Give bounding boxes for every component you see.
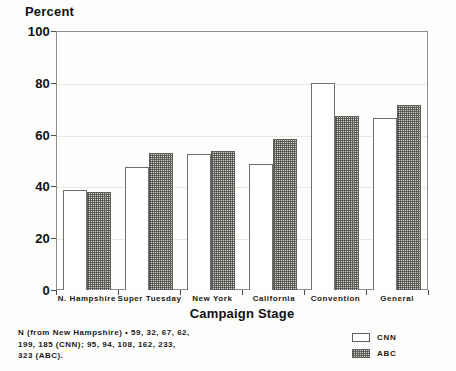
bar-abc-super-tuesday[interactable] bbox=[149, 153, 173, 290]
bar-abc-california[interactable] bbox=[273, 139, 297, 291]
footnote-line: 323 (ABC). bbox=[18, 350, 248, 362]
y-axis-tick bbox=[51, 135, 56, 136]
bar-cnn-general[interactable] bbox=[373, 118, 397, 290]
bar-abc-n-hampshire[interactable] bbox=[87, 192, 111, 290]
legend-swatch-cnn bbox=[352, 333, 370, 342]
footnote-line: N (from New Hampshire) • 59, 32, 67, 62, bbox=[18, 327, 248, 339]
y-axis-tick bbox=[51, 83, 56, 84]
bar-group bbox=[118, 31, 180, 290]
bar-abc-convention[interactable] bbox=[335, 116, 359, 290]
y-axis-title: Percent bbox=[25, 4, 74, 19]
bar-group-inner bbox=[242, 31, 304, 290]
y-axis-tick-label: 0 bbox=[4, 283, 50, 298]
bar-cnn-n-hampshire[interactable] bbox=[63, 190, 87, 290]
bar-cnn-super-tuesday[interactable] bbox=[125, 167, 149, 290]
y-axis-tick-label: 20 bbox=[4, 231, 50, 246]
bar-cnn-california[interactable] bbox=[249, 164, 273, 290]
legend-item-cnn[interactable]: CNN bbox=[352, 331, 396, 344]
legend-label-abc: ABC bbox=[377, 349, 396, 358]
legend-swatch-abc bbox=[352, 349, 370, 358]
bar-group bbox=[180, 31, 242, 290]
y-axis-tick bbox=[51, 31, 56, 32]
bar-cnn-convention[interactable] bbox=[311, 83, 335, 290]
legend-item-abc[interactable]: ABC bbox=[352, 347, 396, 360]
chart-figure: Percent 020406080100 N. HampshireSuper T… bbox=[0, 0, 456, 371]
y-axis-tick-label: 80 bbox=[4, 75, 50, 90]
y-axis-tick-label: 60 bbox=[4, 127, 50, 142]
bar-group-inner bbox=[118, 31, 180, 290]
x-axis-tick bbox=[428, 290, 429, 295]
bar-group-inner bbox=[366, 31, 428, 290]
chart-legend: CNNABC bbox=[352, 331, 396, 363]
x-axis-category-label: General bbox=[366, 294, 428, 303]
x-axis-category-label: N. Hampshire bbox=[56, 294, 118, 303]
x-axis-title: Campaign Stage bbox=[56, 306, 428, 321]
bar-group-inner bbox=[304, 31, 366, 290]
bar-abc-general[interactable] bbox=[397, 105, 421, 290]
y-axis-tick bbox=[51, 290, 56, 291]
legend-label-cnn: CNN bbox=[377, 333, 396, 342]
bar-groups bbox=[56, 31, 428, 290]
x-axis-category-label: New York bbox=[182, 294, 244, 303]
y-axis-tick-label: 40 bbox=[4, 179, 50, 194]
bar-group bbox=[242, 31, 304, 290]
y-axis-tick bbox=[51, 186, 56, 187]
bar-group-inner bbox=[56, 31, 118, 290]
bar-group bbox=[56, 31, 118, 290]
y-axis-tick-label: 100 bbox=[4, 24, 50, 39]
x-axis-category-label: Convention bbox=[305, 294, 367, 303]
bar-cnn-new-york[interactable] bbox=[187, 154, 211, 290]
footnote-line: 199, 185 (CNN); 95, 94, 108, 162, 233, bbox=[18, 339, 248, 351]
x-axis-category-label: Super Tuesday bbox=[118, 294, 182, 303]
bar-group bbox=[304, 31, 366, 290]
y-axis-tick bbox=[51, 238, 56, 239]
bar-group-inner bbox=[180, 31, 242, 290]
x-axis-category-labels: N. HampshireSuper TuesdayNew YorkCalifor… bbox=[56, 294, 428, 303]
footnote-note: N (from New Hampshire) • 59, 32, 67, 62,… bbox=[18, 327, 248, 362]
bar-abc-new-york[interactable] bbox=[211, 151, 235, 290]
bar-group bbox=[366, 31, 428, 290]
x-axis-category-label: California bbox=[243, 294, 305, 303]
